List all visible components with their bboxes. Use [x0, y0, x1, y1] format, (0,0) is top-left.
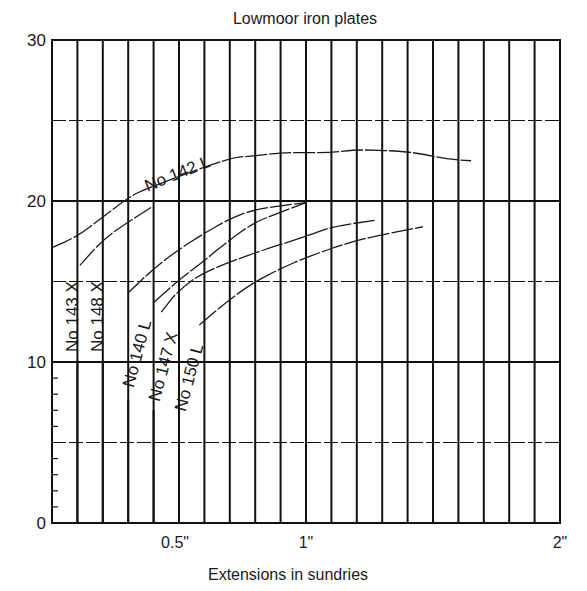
x-axis-label: Extensions in sundries: [208, 566, 368, 583]
chart-container: Lowmoor iron plates 0.5"1"2" 0102030 No …: [0, 0, 587, 591]
series-labels: No 142 LNo 143 XNo 148 XNo 140 LNo 147 X…: [63, 152, 213, 523]
series-label: No 148 X: [88, 281, 107, 352]
x-tick-label: 0.5": [161, 534, 189, 551]
y-tick-label: 0: [37, 514, 46, 533]
y-tick-label: 20: [27, 192, 46, 211]
line-chart: Lowmoor iron plates 0.5"1"2" 0102030 No …: [0, 0, 587, 591]
x-axis-ticks: 0.5"1"2": [161, 534, 567, 551]
x-tick-label: 2": [553, 534, 568, 551]
series-line-no-148-x: [128, 203, 306, 293]
series-line-no-147-x: [161, 220, 374, 312]
y-axis-ticks: 0102030: [27, 31, 46, 533]
y-tick-label: 10: [27, 353, 46, 372]
series-label: No 142 L: [142, 152, 213, 195]
x-tick-label: 1": [299, 534, 314, 551]
series-line-no-143-x: [80, 207, 151, 265]
series-line-no-150-l: [199, 227, 423, 325]
y-tick-label: 30: [27, 31, 46, 50]
chart-title: Lowmoor iron plates: [233, 10, 377, 27]
series-label: No 143 X: [63, 281, 82, 352]
